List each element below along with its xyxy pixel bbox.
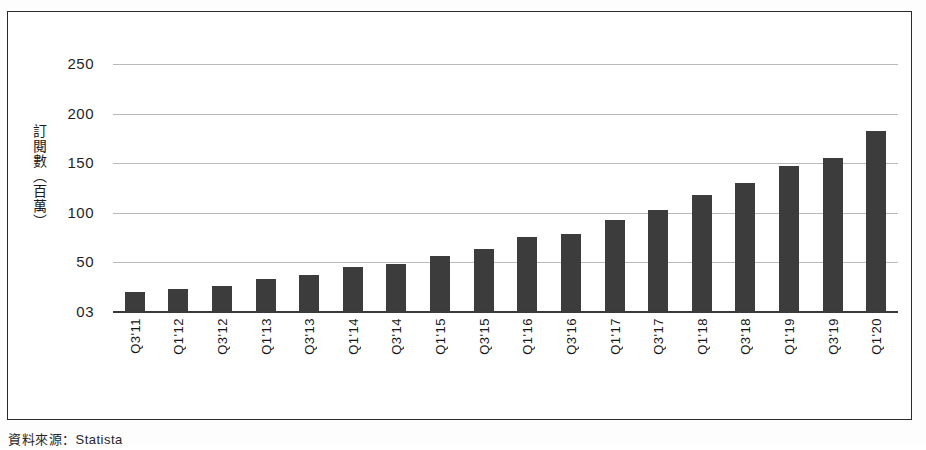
x-tick-label: Q1'14 [346, 318, 361, 355]
bar [168, 289, 188, 312]
x-tick-label: Q1'17 [608, 318, 623, 355]
x-axis-line [113, 311, 898, 313]
gridline [113, 114, 898, 115]
y-tick-label: 150 [48, 154, 94, 171]
x-tick-label: Q1'18 [695, 318, 710, 355]
x-tick-label: Q3'19 [826, 318, 841, 355]
x-tick-label: Q3'18 [738, 318, 753, 355]
x-tick-label: Q1'20 [869, 318, 884, 355]
x-tick-label: Q3'13 [302, 318, 317, 355]
x-tick-label: Q1'16 [520, 318, 535, 355]
bar [823, 158, 843, 312]
bar [779, 166, 799, 312]
y-tick-label: 250 [48, 55, 94, 72]
bar [430, 256, 450, 312]
y-tick-label: 03 [48, 303, 94, 320]
x-tick-label: Q1'19 [782, 318, 797, 355]
y-axis-title: 訂閱數（百萬） [25, 124, 47, 229]
y-tick-label: 50 [48, 253, 94, 270]
gridline [113, 163, 898, 164]
y-tick-label: 200 [48, 105, 94, 122]
x-tick-label: Q3'16 [564, 318, 579, 355]
bar [212, 286, 232, 312]
bar [735, 183, 755, 312]
x-tick-label: Q1'15 [433, 318, 448, 355]
bar [605, 220, 625, 312]
bar [517, 237, 537, 312]
bar [692, 195, 712, 312]
x-tick-label: Q3'17 [651, 318, 666, 355]
plot-area [113, 64, 898, 312]
bar [125, 292, 145, 312]
bar [866, 131, 886, 312]
bar [474, 249, 494, 312]
x-tick-label: Q1'12 [171, 318, 186, 355]
x-tick-label: Q3'14 [389, 318, 404, 355]
bar [648, 210, 668, 312]
chart-frame: 訂閱數（百萬） 0350100150200250 Q3'11Q1'12Q3'12… [7, 11, 912, 420]
bar [256, 279, 276, 312]
bar [561, 234, 581, 312]
x-tick-label: Q1'13 [259, 318, 274, 355]
bar [299, 275, 319, 312]
x-tick-label: Q3'15 [477, 318, 492, 355]
bar [343, 267, 363, 312]
bar [386, 264, 406, 312]
y-tick-label: 100 [48, 204, 94, 221]
x-tick-label: Q3'11 [128, 318, 143, 354]
source-caption: 資料來源：Statista [8, 429, 123, 448]
x-tick-label: Q3'12 [215, 318, 230, 355]
gridline [113, 64, 898, 65]
